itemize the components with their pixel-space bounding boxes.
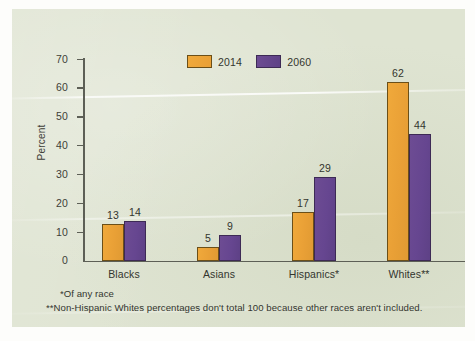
bar-asians-2060[interactable]: 9 — [219, 235, 241, 261]
bar-value-blacks-2060: 14 — [129, 206, 141, 218]
y-tick-20 — [77, 203, 84, 204]
y-tick-label-60: 60 — [42, 81, 68, 93]
chart-figure: 2014 2060 Percent 70 60 50 40 30 20 10 0 — [0, 0, 475, 341]
footnote-of-any-race: *Of any race — [60, 287, 456, 301]
bar-group-hispanics: 17 29 Hispanics* — [280, 59, 370, 261]
bar-group-asians: 5 9 Asians — [185, 59, 275, 261]
x-tick-label-hispanics: Hispanics* — [289, 268, 340, 280]
y-tick-label-10: 10 — [42, 226, 68, 238]
plot-area: 13 14 Blacks 5 9 Asians — [84, 59, 465, 261]
chart-panel: 2014 2060 Percent 70 60 50 40 30 20 10 0 — [12, 9, 465, 327]
footnotes: *Of any race **Non-Hispanic Whites perce… — [46, 287, 456, 315]
bar-group-blacks: 13 14 Blacks — [90, 59, 180, 261]
bar-value-asians-2060: 9 — [227, 220, 233, 232]
bar-value-blacks-2014: 13 — [107, 209, 119, 221]
bar-value-asians-2014: 5 — [205, 232, 211, 244]
bar-value-hispanics-2060: 29 — [319, 162, 331, 174]
bar-value-whites-2014: 62 — [392, 67, 404, 79]
y-tick-70 — [77, 59, 84, 60]
y-tick-30 — [77, 174, 84, 175]
x-tick-label-blacks: Blacks — [108, 268, 140, 280]
bar-hispanics-2060[interactable]: 29 — [314, 177, 336, 261]
y-tick-60 — [77, 87, 84, 88]
y-tick-10 — [77, 232, 84, 233]
bar-value-hispanics-2014: 17 — [297, 197, 309, 209]
bar-whites-2060[interactable]: 44 — [409, 134, 431, 261]
y-tick-label-70: 70 — [42, 53, 68, 65]
bar-value-whites-2060: 44 — [414, 119, 426, 131]
y-tick-label-0: 0 — [42, 254, 68, 266]
bar-blacks-2060[interactable]: 14 — [124, 221, 146, 261]
y-tick-label-50: 50 — [42, 110, 68, 122]
bar-blacks-2014[interactable]: 13 — [102, 224, 124, 262]
y-tick-label-30: 30 — [42, 168, 68, 180]
y-tick-50 — [77, 116, 84, 117]
bar-asians-2014[interactable]: 5 — [197, 247, 219, 261]
y-tick-label-40: 40 — [42, 139, 68, 151]
bar-group-whites: 62 44 Whites** — [375, 59, 465, 261]
y-tick-label-20: 20 — [42, 197, 68, 209]
x-tick-label-whites: Whites** — [388, 268, 429, 280]
bar-hispanics-2014[interactable]: 17 — [292, 212, 314, 261]
x-tick-label-asians: Asians — [203, 268, 235, 280]
bar-whites-2014[interactable]: 62 — [387, 82, 409, 261]
y-tick-40 — [77, 145, 84, 146]
footnote-non-hispanic-whites: **Non-Hispanic Whites percentages don't … — [46, 301, 456, 315]
